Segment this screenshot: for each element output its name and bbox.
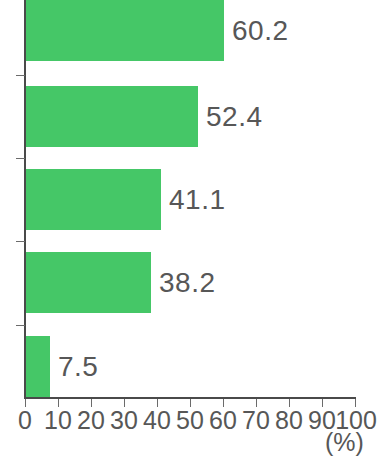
bar-value-4: 7.5 xyxy=(58,336,98,397)
bar-value-2: 41.1 xyxy=(169,169,226,230)
x-axis-unit-label: (%) xyxy=(325,430,364,455)
x-axis-label-50: 50 xyxy=(176,408,204,433)
x-axis-label-80: 80 xyxy=(275,408,303,433)
x-axis-label-20: 20 xyxy=(77,408,105,433)
x-axis-label-0: 0 xyxy=(18,408,32,433)
y-axis-tick xyxy=(16,241,25,242)
x-axis-label-40: 40 xyxy=(143,408,171,433)
y-axis-tick xyxy=(16,325,25,326)
x-axis-label-10: 10 xyxy=(44,408,72,433)
bar-0 xyxy=(25,0,224,61)
y-axis-line xyxy=(24,0,26,399)
plot-area: 60.2 52.4 41.1 38.2 7.5 xyxy=(0,0,389,399)
y-axis-tick xyxy=(16,158,25,159)
bar-3 xyxy=(25,252,151,313)
bar-value-1: 52.4 xyxy=(206,86,263,147)
x-axis-label-70: 70 xyxy=(242,408,270,433)
bar-1 xyxy=(25,86,198,147)
bar-value-0: 60.2 xyxy=(232,0,289,61)
bar-2 xyxy=(25,169,161,230)
x-axis-label-60: 60 xyxy=(209,408,237,433)
bar-value-3: 38.2 xyxy=(159,252,216,313)
bar-chart: 60.2 52.4 41.1 38.2 7.5 xyxy=(0,0,389,463)
bar-4 xyxy=(25,336,50,397)
x-axis-label-30: 30 xyxy=(110,408,138,433)
y-axis-tick xyxy=(16,75,25,76)
